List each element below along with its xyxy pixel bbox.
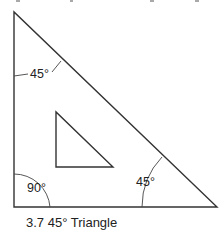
outer-triangle	[14, 12, 217, 207]
inner-triangle	[56, 112, 113, 167]
top-angle-arc-right	[52, 61, 61, 72]
angle-label-top: 45°	[30, 67, 49, 81]
clipped-top-text	[16, 0, 199, 2]
angle-label-bottom-left: 90°	[27, 181, 46, 195]
angle-label-bottom-right: 45°	[136, 175, 155, 189]
figure-caption: 3.7 45° Triangle	[26, 215, 117, 230]
top-angle-arc	[14, 74, 28, 76]
triangle-diagram: 45° 90° 45°	[0, 0, 224, 234]
